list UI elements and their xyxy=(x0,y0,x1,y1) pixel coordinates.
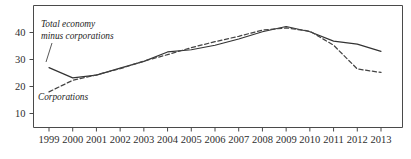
x-axis-tick-label: 2003 xyxy=(133,134,154,145)
x-axis-tick-label: 2008 xyxy=(252,134,273,145)
series-label-total-economy-line1: Total economy xyxy=(41,19,96,29)
y-axis-tick-label: 10 xyxy=(15,108,26,119)
x-axis-tick-label: 2007 xyxy=(228,134,249,145)
x-axis-tick-label: 2010 xyxy=(299,134,320,145)
x-axis-tick-label: 2000 xyxy=(62,134,83,145)
x-axis-tick-label: 2009 xyxy=(276,134,297,145)
y-axis-tick-label: 20 xyxy=(15,81,26,92)
x-axis-tick-label: 2005 xyxy=(181,134,202,145)
x-axis-tick-label: 2002 xyxy=(110,134,131,145)
leader-line-total-economy xyxy=(46,43,52,62)
x-axis-tick-label: 2006 xyxy=(205,134,226,145)
x-axis-tick-label: 2004 xyxy=(157,134,179,145)
chart-container: 1020304019992000200120022003200420052006… xyxy=(0,0,411,159)
series-label-total-economy-line2: minus corporations xyxy=(41,31,114,41)
x-axis-tick-label: 1999 xyxy=(39,134,60,145)
x-axis-tick-label: 2012 xyxy=(347,134,368,145)
x-axis-tick-label: 2001 xyxy=(86,134,107,145)
y-axis-tick-label: 30 xyxy=(15,54,26,65)
y-axis-tick-label: 40 xyxy=(15,27,26,38)
line-chart: 1020304019992000200120022003200420052006… xyxy=(0,0,411,159)
x-axis-tick-label: 2011 xyxy=(323,134,344,145)
series-label-corporations: Corporations xyxy=(38,92,88,102)
x-axis-tick-label: 2013 xyxy=(371,134,392,145)
